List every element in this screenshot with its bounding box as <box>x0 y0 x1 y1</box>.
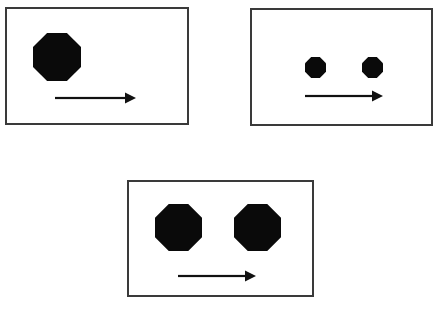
motion-arrow-icon <box>178 269 256 283</box>
stimulus-panel-top-left <box>5 7 189 125</box>
octagon-large-1-icon <box>33 33 81 81</box>
stimulus-panel-bottom-center <box>127 180 314 297</box>
stimulus-panel-top-right <box>250 8 433 126</box>
motion-arrow-icon <box>55 91 136 105</box>
octagon-small-2-icon <box>362 57 383 78</box>
motion-arrow-icon <box>305 89 383 103</box>
octagon-large-2-icon <box>234 204 281 251</box>
figure-canvas <box>0 0 444 311</box>
octagon-large-1-icon <box>155 204 202 251</box>
octagon-small-1-icon <box>305 57 326 78</box>
